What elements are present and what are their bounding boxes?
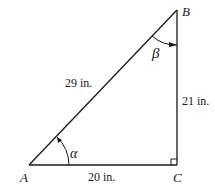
vertex-c-label: C xyxy=(173,170,182,185)
vertical-side-label: 21 in. xyxy=(182,94,209,108)
hypotenuse-label: 29 in. xyxy=(65,76,92,90)
vertex-b-label: B xyxy=(182,4,190,19)
beta-arrowhead-icon xyxy=(169,42,177,47)
base-label: 20 in. xyxy=(88,170,115,184)
alpha-label: α xyxy=(70,146,78,161)
triangle-diagram: B A C 29 in. 21 in. 20 in. α β xyxy=(0,0,215,185)
vertex-a-label: A xyxy=(19,170,28,185)
beta-label: β xyxy=(151,45,160,61)
right-angle-marker xyxy=(171,159,177,165)
hypotenuse-side xyxy=(29,10,177,165)
